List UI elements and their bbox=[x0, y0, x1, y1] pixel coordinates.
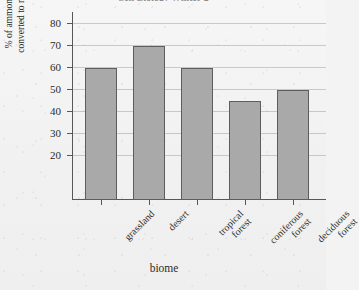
x-label-coniferous-forest: coniferous forest bbox=[267, 208, 312, 253]
x-axis-title: biome bbox=[72, 262, 256, 274]
x-tick-grassland bbox=[101, 200, 102, 205]
x-label-deciduous-forest: deciduous forest bbox=[315, 208, 359, 252]
y-tick-label-40: 40 bbox=[50, 106, 61, 117]
y-tick-80: 80 bbox=[67, 23, 73, 24]
bar-deciduous-forest bbox=[277, 90, 309, 200]
y-tick-30: 30 bbox=[67, 133, 73, 134]
y-tick-label-20: 20 bbox=[50, 150, 61, 161]
y-tick-70: 70 bbox=[67, 45, 73, 46]
x-label-desert-line-1: desert bbox=[166, 208, 191, 233]
x-label-grassland: grassland bbox=[122, 208, 156, 242]
y-tick-label-30: 30 bbox=[50, 128, 61, 139]
gridline-80 bbox=[73, 23, 326, 24]
y-axis-line bbox=[72, 12, 73, 200]
y-axis-title: % of ammonium converted to nitrate bbox=[4, 0, 30, 76]
x-tick-desert bbox=[149, 200, 150, 205]
y-tick-20: 20 bbox=[67, 155, 73, 156]
x-tick-tropical-forest bbox=[197, 200, 198, 205]
y-tick-label-80: 80 bbox=[50, 18, 61, 29]
plot-area: 20 30 40 50 60 70 80 bbox=[72, 12, 256, 200]
bar-coniferous-forest bbox=[229, 101, 261, 200]
y-tick-40: 40 bbox=[67, 111, 73, 112]
y-tick-label-70: 70 bbox=[50, 40, 61, 51]
y-tick-60: 60 bbox=[67, 67, 73, 68]
bar-tropical-forest bbox=[181, 68, 213, 200]
chart-title: Cell Biology Winter 2 bbox=[0, 0, 326, 1]
gridline-70 bbox=[73, 45, 326, 46]
x-tick-deciduous-forest bbox=[293, 200, 294, 205]
bar-desert bbox=[133, 46, 165, 200]
y-tick-label-60: 60 bbox=[50, 62, 61, 73]
y-axis-title-line-2: converted to nitrate bbox=[16, 0, 30, 76]
x-label-desert: desert bbox=[166, 208, 191, 233]
bar-grassland bbox=[85, 68, 117, 200]
y-tick-label-50: 50 bbox=[50, 84, 61, 95]
y-tick-50: 50 bbox=[67, 89, 73, 90]
x-tick-coniferous-forest bbox=[245, 200, 246, 205]
x-label-tropical-forest: tropical forest bbox=[216, 208, 253, 245]
x-label-grassland-line-1: grassland bbox=[122, 208, 156, 242]
